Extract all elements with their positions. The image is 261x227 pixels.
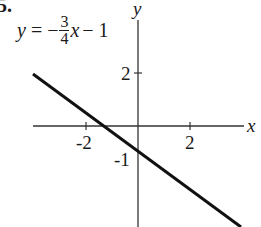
y-tick-label-2: 2 xyxy=(121,63,131,84)
y-tick-label-neg1: -1 xyxy=(114,149,130,170)
y-axis-label: y xyxy=(131,0,142,19)
x-tick-label-neg2: -2 xyxy=(76,132,92,153)
x-axis-label: x xyxy=(246,115,256,136)
coordinate-plot: x y -2 2 2 -1 xyxy=(0,0,261,227)
graph-line xyxy=(33,74,241,227)
x-tick-label-2: 2 xyxy=(185,132,195,153)
